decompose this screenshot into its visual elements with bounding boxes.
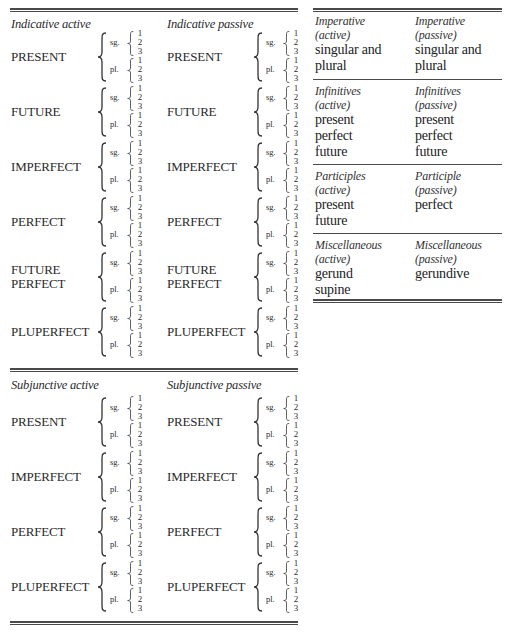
subjunctive-passive-heading: Subjunctive passive [167, 378, 261, 393]
number-label: sg. [266, 402, 276, 412]
curly-brace-icon [127, 86, 134, 111]
plural-row: pl. 1 2 3 [110, 222, 150, 248]
right-table-top-rule [313, 8, 502, 12]
tense-label: PERFECT [11, 525, 65, 539]
person-list: 1 2 3 [292, 586, 300, 613]
form-item: perfect [415, 128, 511, 144]
plural-row: pl. 1 2 3 [266, 532, 306, 558]
section-subheading: (active) [315, 98, 411, 112]
person-list: 1 2 3 [292, 304, 300, 331]
curly-brace-icon [97, 87, 107, 137]
imperative-passive: Imperative (passive) singular and plural [415, 14, 511, 74]
curly-brace-icon [283, 113, 290, 138]
curly-brace-icon [127, 333, 134, 358]
curly-brace-icon [283, 223, 290, 248]
singular-row: sg. 1 2 3 [110, 450, 150, 476]
section-subheading: (passive) [415, 28, 511, 42]
number-label: sg. [110, 512, 120, 522]
form-item: singular and [415, 42, 511, 58]
tense-label: IMPERFECT [167, 470, 237, 484]
curly-brace-icon [127, 561, 134, 586]
miscellaneous-passive: Miscellaneous (passive) gerundive [415, 238, 511, 282]
curly-brace-icon [127, 588, 134, 613]
curly-brace-icon [253, 142, 263, 192]
section-heading: Participle [415, 169, 511, 183]
right-table-divider [313, 79, 502, 80]
right-table-bottom-rule [313, 299, 502, 303]
tense-label: FUTURE [167, 105, 216, 119]
tense-group: FUTURE PERFECT sg. 1 2 3 pl. [167, 250, 307, 304]
plural-row: pl. 1 2 3 [266, 167, 306, 193]
curly-brace-icon [127, 278, 134, 303]
tense-label: PRESENT [167, 50, 222, 64]
curly-brace-icon [97, 142, 107, 192]
form-item: present [415, 112, 511, 128]
number-label: sg. [266, 457, 276, 467]
tense-label: FUTURE PERFECT [167, 263, 237, 291]
number-label: pl. [266, 174, 275, 184]
plural-row: pl. 1 2 3 [110, 477, 150, 503]
number-label: pl. [110, 429, 119, 439]
person-list: 1 2 3 [292, 559, 300, 586]
curly-brace-icon [253, 452, 263, 502]
plural-row: pl. 1 2 3 [266, 477, 306, 503]
tense-label: PRESENT [167, 415, 222, 429]
person-list: 1 2 3 [292, 139, 300, 166]
person-list: 1 2 3 [292, 166, 300, 193]
person-list: 1 2 3 [136, 476, 144, 503]
tense-label: PERFECT [167, 525, 221, 539]
person-number: 3 [136, 439, 144, 448]
singular-row: sg. 1 2 3 [266, 250, 306, 276]
person-number: 3 [292, 184, 300, 193]
section-heading: Miscellaneous [415, 238, 511, 252]
curly-brace-icon [97, 32, 107, 82]
number-label: sg. [266, 92, 276, 102]
tense-group: PRESENT sg. 1 2 3 pl. [11, 395, 151, 449]
person-list: 1 2 3 [292, 394, 300, 421]
plural-row: pl. 1 2 3 [110, 587, 150, 613]
person-number: 3 [292, 239, 300, 248]
number-label: sg. [110, 202, 120, 212]
plural-row: pl. 1 2 3 [266, 332, 306, 358]
person-list: 1 2 3 [136, 139, 144, 166]
plural-row: pl. 1 2 3 [110, 112, 150, 138]
plural-row: pl. 1 2 3 [110, 277, 150, 303]
singular-row: sg. 1 2 3 [110, 395, 150, 421]
tense-label: PRESENT [11, 50, 66, 64]
curly-brace-icon [283, 533, 290, 558]
number-label: pl. [266, 594, 275, 604]
section-heading: Imperative [315, 14, 411, 28]
tense-group: PRESENT sg. 1 2 3 pl. [167, 395, 307, 449]
tense-group: PLUPERFECT sg. 1 2 3 pl. [11, 560, 151, 614]
person-list: 1 2 3 [292, 276, 300, 303]
person-number: 3 [292, 549, 300, 558]
section-divider-rule [10, 368, 298, 372]
singular-row: sg. 1 2 3 [110, 85, 150, 111]
tense-label: IMPERFECT [11, 470, 81, 484]
person-list: 1 2 3 [292, 504, 300, 531]
singular-row: sg. 1 2 3 [110, 195, 150, 221]
tense-label: PRESENT [11, 415, 66, 429]
person-number: 3 [136, 239, 144, 248]
form-item: present [315, 112, 411, 128]
person-list: 1 2 3 [292, 331, 300, 358]
tense-label: PLUPERFECT [167, 325, 245, 339]
tense-group: PLUPERFECT sg. 1 2 3 pl. [167, 560, 307, 614]
singular-row: sg. 1 2 3 [266, 30, 306, 56]
singular-row: sg. 1 2 3 [266, 560, 306, 586]
person-number: 3 [292, 129, 300, 138]
indicative-table: Indicative active PRESENT sg. 1 2 3 pl. [10, 17, 298, 367]
singular-row: sg. 1 2 3 [110, 505, 150, 531]
curly-brace-icon [97, 562, 107, 612]
number-label: pl. [266, 484, 275, 494]
number-label: sg. [110, 457, 120, 467]
curly-brace-icon [253, 252, 263, 302]
curly-brace-icon [127, 58, 134, 83]
tense-group: FUTURE sg. 1 2 3 pl. [167, 85, 307, 139]
number-label: sg. [266, 202, 276, 212]
person-list: 1 2 3 [136, 394, 144, 421]
person-list: 1 2 3 [292, 249, 300, 276]
section-subheading: (active) [315, 183, 411, 197]
tense-group: IMPERFECT sg. 1 2 3 pl. [167, 140, 307, 194]
miscellaneous-active: Miscellaneous (active) gerund supine [315, 238, 411, 298]
